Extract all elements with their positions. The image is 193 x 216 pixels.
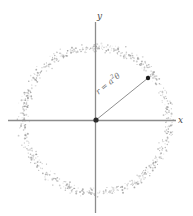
ring-point-marker — [146, 76, 150, 80]
x-axis-label: x — [178, 116, 183, 125]
origin-marker — [93, 117, 98, 122]
plot-canvas — [0, 0, 193, 216]
axes-group — [8, 22, 176, 213]
polar-scatter-figure: y x r = a2θ — [0, 0, 193, 216]
y-axis-label: y — [97, 12, 102, 21]
